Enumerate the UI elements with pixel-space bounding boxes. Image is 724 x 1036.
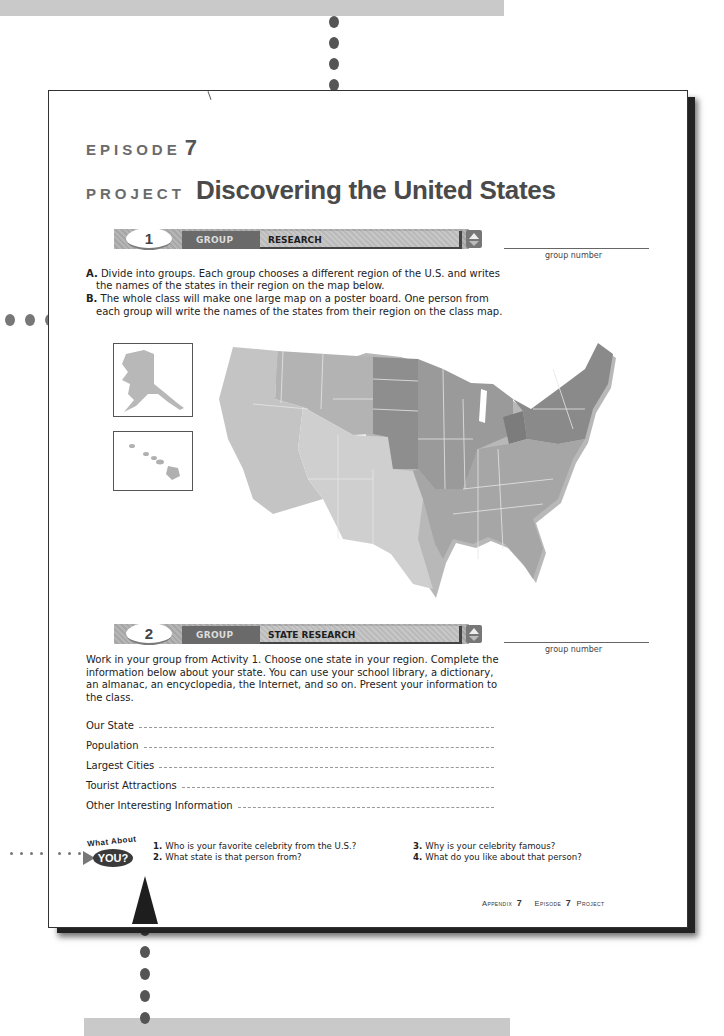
scan-mark [207,91,211,100]
dotted-connector-dot [30,852,33,855]
dotted-connector-dot [20,852,23,855]
dotted-connector-dot [58,852,61,855]
dotted-connector-dot [329,37,339,49]
dotted-connector-dot [329,16,339,28]
group-number-label: group number [545,645,602,654]
dotted-connector-dot [140,990,150,1002]
dotted-connector-dot [10,852,13,855]
dotted-connector-dot [329,58,339,70]
group-tag: GROUP [182,626,260,644]
question-item: 4.What do you like about that person? [413,852,582,863]
group-number-label: group number [545,251,602,260]
dotted-connector-dot [140,1012,150,1024]
page-footer: Appendix 7 Episode 7 Project [482,898,604,908]
instruction-item: A. Divide into groups. Each group choose… [86,268,506,292]
question-item: 1.Who is your favorite celebrity from th… [153,841,356,852]
section-2-instructions: Work in your group from Activity 1. Choo… [86,654,506,704]
dotted-connector-dot [68,852,71,855]
dotted-connector-dot [140,946,150,958]
episode-label: EPISODE [86,141,181,158]
worksheet-page: EPISODE7 PROJECT Discovering the United … [48,90,688,928]
dotted-connector-dot [5,314,15,326]
section-title: RESEARCH [260,231,462,249]
dotted-connector-dot [140,968,150,980]
group-number-line[interactable] [504,248,649,249]
us-map [213,339,623,609]
episode-heading: EPISODE7 [86,135,197,161]
title-kicker: PROJECT [86,185,185,202]
field-tourist-attractions[interactable]: Tourist Attractions [86,777,494,791]
section-title: STATE RESEARCH [260,626,462,644]
instruction-item: B. The whole class will make one large m… [86,293,506,317]
arrow-toggle-icon [466,230,482,248]
question-item: 2.What state is that person from? [153,852,302,863]
instructions-list: A. Divide into groups. Each group choose… [86,268,506,319]
group-number-line[interactable] [504,642,649,643]
group-tag: GROUP [182,231,260,249]
section-2-header: 2 GROUP STATE RESEARCH [114,624,469,644]
what-about-you-badge: What About YOU? [83,837,143,873]
arrow-toggle-icon [466,625,482,643]
dotted-connector-dot [25,314,35,326]
section-number-badge: 2 [126,623,172,645]
field-other-info[interactable]: Other Interesting Information [86,797,494,811]
field-largest-cities[interactable]: Largest Cities [86,757,494,771]
section-1-header: 1 GROUP RESEARCH [114,229,469,249]
dotted-connector-dot [78,852,81,855]
top-gray-banner [0,0,504,16]
dotted-connector-dot [40,852,43,855]
episode-number: 7 [185,135,197,160]
alaska-inset [113,343,193,417]
up-arrow-icon [132,876,158,924]
field-population[interactable]: Population [86,737,494,751]
page-title: PROJECT Discovering the United States [86,175,556,206]
hawaii-inset [113,431,193,491]
question-item: 3.Why is your celebrity famous? [413,841,555,852]
title-main: Discovering the United States [196,175,556,205]
section-number-badge: 1 [126,228,172,250]
field-our-state[interactable]: Our State [86,717,494,731]
